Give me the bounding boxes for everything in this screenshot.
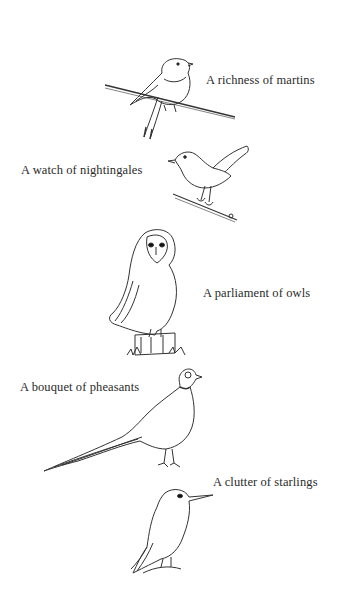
nightingale-illustration	[165, 142, 255, 224]
caption-martins: A richness of martins	[206, 73, 315, 88]
martin-illustration	[100, 55, 240, 145]
caption-owls: A parliament of owls	[203, 286, 310, 301]
owl-illustration	[103, 225, 198, 360]
starling-illustration	[125, 483, 220, 578]
caption-starlings: A clutter of starlings	[213, 475, 318, 490]
pheasant-illustration	[42, 365, 222, 477]
caption-nightingales: A watch of nightingales	[21, 163, 142, 178]
